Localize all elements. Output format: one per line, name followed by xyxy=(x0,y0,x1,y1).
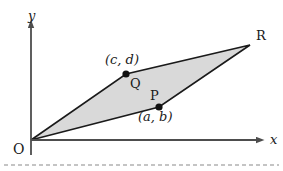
figure-canvas xyxy=(0,0,283,171)
geometry-figure: y x O (c, d) Q P (a, b) R xyxy=(0,0,283,171)
point-coord-label-cd: (c, d) xyxy=(105,53,139,66)
point-label-P: P xyxy=(150,89,159,102)
point-label-Q: Q xyxy=(130,77,141,90)
parallelogram-shape xyxy=(31,45,250,140)
x-axis-label: x xyxy=(270,133,277,146)
y-axis-label: y xyxy=(28,9,35,22)
point-coord-label-ab: (a, b) xyxy=(138,110,172,123)
point-dot-Q xyxy=(122,70,129,77)
point-label-R: R xyxy=(256,29,266,42)
origin-label: O xyxy=(13,142,24,156)
